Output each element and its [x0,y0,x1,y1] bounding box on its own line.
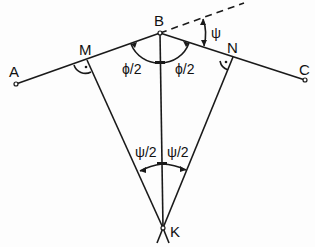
label-phi-half-right: ϕ/2 [175,62,195,76]
label-psi-half-left: ψ/2 [135,145,157,159]
label-b: B [154,13,164,28]
point-c-marker [303,78,307,82]
tick [157,162,167,165]
label-c: C [299,62,310,77]
label-psi-half-right: ψ/2 [167,145,189,159]
label-psi: ψ [211,26,221,40]
label-m: M [79,42,92,57]
point-b-marker [158,31,162,35]
right-angle-marker-m [74,65,91,73]
label-a: A [9,64,19,79]
point-k-marker [161,226,165,230]
right-angle-dot-m [85,66,88,69]
arrowhead [200,19,206,25]
extension-dashed [160,3,244,33]
tick [155,61,165,64]
tangent-angle-diagram: A M B N C K ϕ/2 ϕ/2 ψ ψ/2 ψ/2 [0,0,315,247]
arrowhead [201,40,207,46]
label-n: N [227,40,238,55]
right-angle-dot-n [225,61,228,64]
segment-nk [163,57,233,228]
diagram-lines [0,0,315,247]
point-a-marker [14,82,18,86]
psi-half-arc [140,164,186,171]
label-k: K [170,224,180,239]
label-phi-half-left: ϕ/2 [122,62,142,76]
